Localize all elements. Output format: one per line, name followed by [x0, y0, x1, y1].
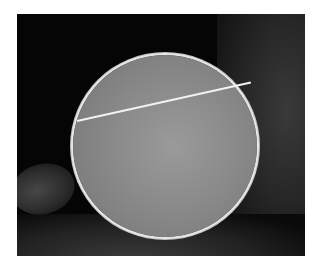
circular-cross-section — [73, 55, 257, 237]
micrograph-photo — [17, 14, 305, 256]
background-lobe-left — [17, 157, 80, 222]
